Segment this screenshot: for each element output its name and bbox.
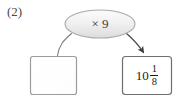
fraction-denominator: 8: [151, 76, 158, 87]
worksheet-problem-page: (2) × 9 1: [0, 0, 178, 100]
whole-number-part: 10: [136, 69, 151, 82]
input-box-value[interactable]: [30, 56, 77, 95]
operator-label: × 9: [65, 10, 135, 38]
output-box-value: 10 1 8: [122, 56, 172, 95]
fraction-numerator: 1: [151, 64, 158, 75]
mixed-number: 10 1 8: [136, 64, 159, 87]
fraction: 1 8: [150, 64, 158, 87]
